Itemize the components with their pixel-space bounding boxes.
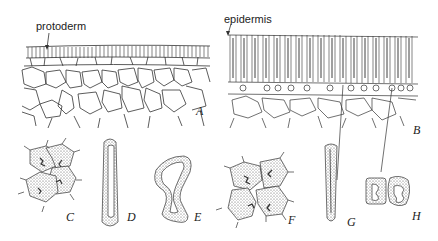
- pointer-to-g: [337, 85, 343, 180]
- epidermis-label: epidermis: [224, 13, 272, 25]
- panel-h-drawing: [366, 176, 410, 205]
- panel-letter-f: F: [288, 213, 295, 228]
- diagram-canvas: [0, 0, 438, 241]
- panel-letter-d: D: [127, 210, 136, 225]
- protoderm-label: protoderm: [36, 20, 86, 32]
- panel-letter-b: B: [413, 123, 420, 138]
- panel-letter-h: H: [412, 209, 421, 224]
- panel-f-drawing: [216, 152, 294, 228]
- panel-letter-c: C: [66, 210, 74, 225]
- panel-a-drawing: [22, 45, 210, 128]
- panel-letter-g: G: [347, 215, 356, 230]
- panel-d-drawing: [102, 139, 118, 226]
- panel-c-drawing: [18, 138, 82, 212]
- panel-e-drawing: [155, 156, 191, 222]
- panel-b-drawing: [228, 35, 418, 128]
- panel-letter-a: A: [196, 104, 203, 119]
- panel-g-drawing: [325, 144, 337, 221]
- panel-letter-e: E: [194, 210, 201, 225]
